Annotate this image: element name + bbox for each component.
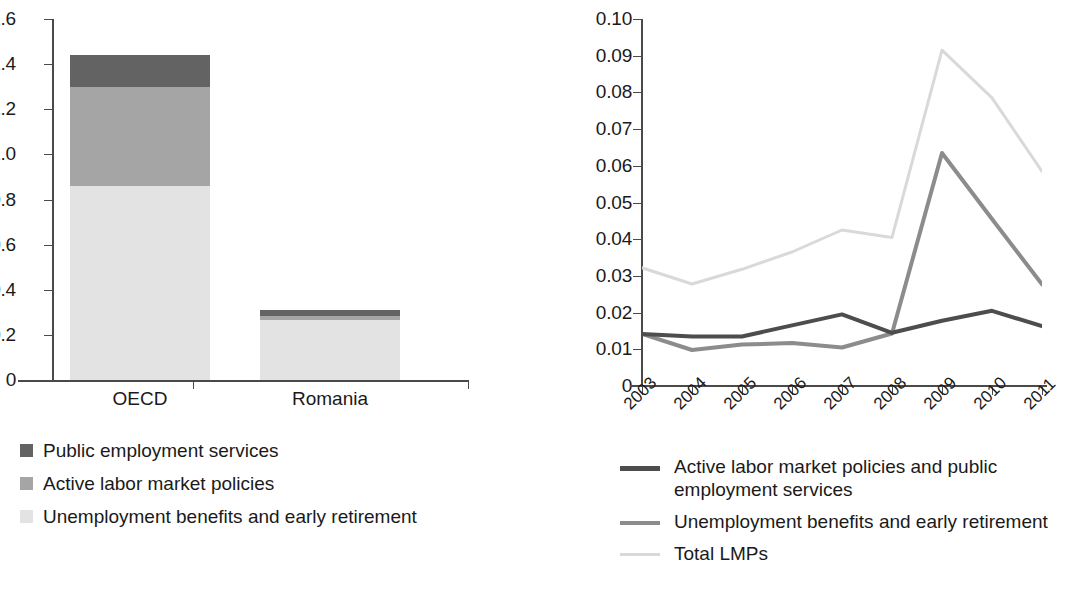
line-chart-svg [642, 19, 1042, 386]
bar-y-tick-label: 0.2 [0, 324, 16, 346]
line-legend-label: Active labor market policies and public … [674, 455, 1060, 501]
bar-column [260, 310, 400, 380]
bar-y-tick-label: 0.8 [0, 189, 16, 211]
line-y-tick-label: 0.02 [566, 302, 632, 324]
bar-chart-x-axis-line [18, 380, 468, 382]
line-series-path [642, 311, 1042, 337]
bar-legend-label: Active labor market policies [43, 473, 274, 495]
line-y-tick-mark [633, 129, 642, 130]
line-legend-item: Active labor market policies and public … [620, 455, 1060, 501]
line-y-tick-label: 0 [566, 375, 632, 397]
line-y-tick-mark [633, 19, 642, 20]
bar-legend-item: Public employment services [20, 440, 500, 462]
line-y-tick-mark [633, 92, 642, 93]
bar-y-tick-label: 0.6 [0, 234, 16, 256]
bar-y-tick-label: 1.6 [0, 8, 16, 30]
bar-segment [260, 320, 400, 380]
line-legend-item: Total LMPs [620, 542, 1060, 565]
line-y-tick-label: 0.01 [566, 338, 632, 360]
bar-y-tick-mark [44, 19, 53, 20]
bar-y-tick-label: 0.4 [0, 279, 16, 301]
bar-y-tick-label: 1.0 [0, 143, 16, 165]
line-legend-item: Unemployment benefits and early retireme… [620, 510, 1060, 533]
bar-chart-legend: Public employment servicesActive labor m… [20, 440, 500, 539]
bar-y-tick-mark [44, 64, 53, 65]
bar-category-label: Romania [240, 388, 420, 410]
bar-x-tick-mark [193, 380, 194, 389]
line-y-tick-label: 0.04 [566, 228, 632, 250]
line-y-tick-label: 0.03 [566, 265, 632, 287]
bar-y-tick-mark [44, 154, 53, 155]
bar-y-tick-mark [44, 109, 53, 110]
bar-segment [70, 186, 210, 380]
bar-legend-label: Public employment services [43, 440, 278, 462]
bar-column [70, 55, 210, 380]
line-chart-plot-area [642, 19, 1042, 386]
legend-swatch-icon [20, 510, 33, 523]
bar-y-tick-label: 1.4 [0, 53, 16, 75]
bar-y-tick-mark [44, 290, 53, 291]
bar-y-tick-mark [44, 380, 53, 381]
legend-line-icon [620, 466, 660, 471]
line-y-tick-mark [633, 203, 642, 204]
line-chart-legend: Active labor market policies and public … [620, 455, 1060, 574]
legend-swatch-icon [20, 477, 33, 490]
line-y-tick-mark [633, 166, 642, 167]
line-y-tick-label: 0.09 [566, 45, 632, 67]
line-legend-label: Total LMPs [674, 542, 768, 565]
bar-x-tick-mark [468, 380, 469, 389]
line-y-tick-label: 0.10 [566, 8, 632, 30]
line-series-path [642, 50, 1042, 284]
bar-y-tick-label: 0 [6, 369, 16, 391]
line-y-tick-mark [633, 56, 642, 57]
line-chart-y-axis: 00.010.020.030.040.050.060.070.080.090.1… [556, 19, 632, 386]
bar-segment [70, 55, 210, 87]
legend-line-icon [620, 553, 660, 556]
bar-y-tick-label: 1.2 [0, 98, 16, 120]
bar-y-tick-mark [44, 245, 53, 246]
line-y-tick-mark [633, 276, 642, 277]
bar-category-label: OECD [50, 388, 230, 410]
line-y-tick-mark [633, 349, 642, 350]
line-y-tick-label: 0.05 [566, 192, 632, 214]
bar-legend-item: Unemployment benefits and early retireme… [20, 506, 500, 528]
line-chart-panel: 00.010.020.030.040.050.060.070.080.090.1… [520, 0, 1067, 592]
legend-swatch-icon [20, 444, 33, 457]
stacked-bar-chart-panel: 00.20.40.60.81.01.21.41.6 Public employm… [0, 0, 520, 592]
bar-chart-plot-area [18, 19, 468, 380]
line-series-path [642, 153, 1042, 350]
line-legend-label: Unemployment benefits and early retireme… [674, 510, 1048, 533]
bar-y-tick-mark [44, 200, 53, 201]
bar-segment [70, 87, 210, 186]
bar-y-tick-mark [44, 335, 53, 336]
line-y-tick-mark [633, 313, 642, 314]
line-y-tick-label: 0.06 [566, 155, 632, 177]
line-y-tick-label: 0.07 [566, 118, 632, 140]
legend-line-icon [620, 521, 660, 525]
line-y-tick-label: 0.08 [566, 81, 632, 103]
line-y-tick-mark [633, 239, 642, 240]
bar-chart-y-axis: 00.20.40.60.81.01.21.41.6 [0, 19, 16, 380]
bar-legend-label: Unemployment benefits and early retireme… [43, 506, 417, 528]
bar-legend-item: Active labor market policies [20, 473, 500, 495]
